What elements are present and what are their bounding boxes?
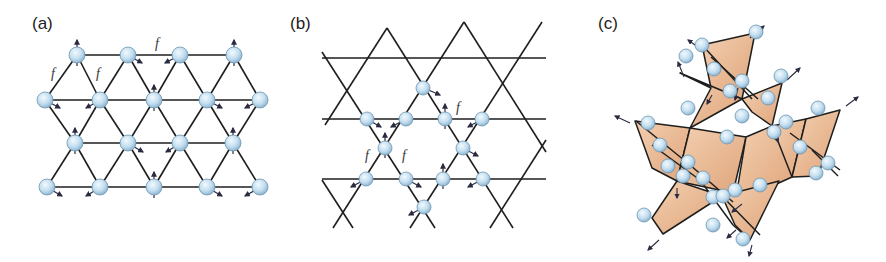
panel-a-frustration-label: f: [155, 36, 161, 51]
figure-canvas: f f f f f f: [0, 0, 886, 262]
panel-a-triangular-lattice: [45, 55, 260, 187]
panel-a-frustration-label: f: [51, 66, 57, 81]
panel-b-frustration-label: f: [365, 148, 371, 163]
panel-a-atoms: [37, 47, 268, 195]
panel-b-atoms: [359, 81, 490, 214]
panel-c-tetrahedra: [635, 33, 840, 240]
panel-a-spin-arrows: [39, 40, 266, 198]
panel-b-frustration-label: f: [456, 100, 462, 115]
panel-b-kagome-lattice: [322, 22, 546, 228]
panel-b-frustration-label: f: [402, 148, 408, 163]
panel-a-frustration-label: f: [96, 66, 102, 81]
